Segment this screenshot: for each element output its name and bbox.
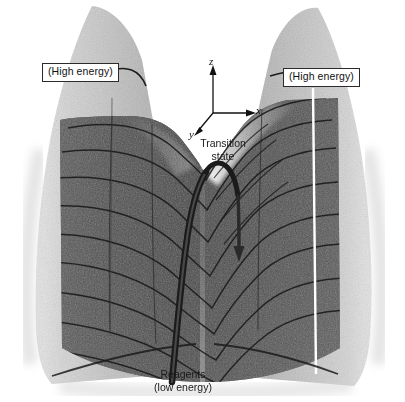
label-reagents: Reagents (low energy) [123,368,243,393]
transition-state-line-2: state [186,150,260,163]
axis-label-z: z [209,55,213,67]
reagents-line-2: (low energy) [123,381,243,394]
potential-energy-surface-figure: (High energy) (High energy) Transition s… [0,0,405,402]
axis-label-y: y [189,128,194,140]
label-high-energy-right: (High energy) [283,68,360,87]
axis-label-x: x [256,104,261,116]
reagents-line-1: Reagents [123,368,243,381]
label-high-energy-left: (High energy) [42,63,119,82]
transition-state-line-1: Transition [186,137,260,150]
surface-artwork [0,0,405,402]
label-transition-state: Transition state [186,137,260,162]
